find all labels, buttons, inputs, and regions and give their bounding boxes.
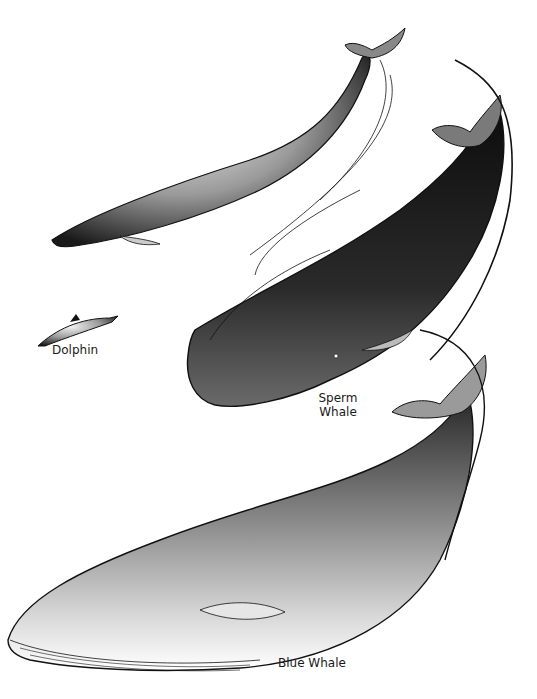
sperm-whale-label-line1: Sperm xyxy=(318,391,358,405)
sperm-whale-label: Sperm Whale xyxy=(318,391,358,419)
sperm-whale-label-line2: Whale xyxy=(318,405,358,419)
dolphin xyxy=(38,314,118,346)
blue-whale-label: Blue Whale xyxy=(278,656,346,670)
top-whale xyxy=(52,28,405,255)
dolphin-label: Dolphin xyxy=(52,343,98,357)
